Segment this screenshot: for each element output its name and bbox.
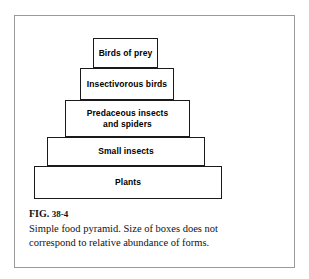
figure-page: Birds of prey Insectivorous birds Predac… xyxy=(0,0,309,279)
figure-caption-text: Simple food pyramid. Size of boxes does … xyxy=(29,222,265,249)
pyramid-tier-label: Predaceous insects and spiders xyxy=(85,108,171,130)
pyramid-tier-small-insects: Small insects xyxy=(47,137,205,166)
pyramid-tier-insectivorous-birds: Insectivorous birds xyxy=(80,68,174,100)
pyramid-tier-label: Birds of prey xyxy=(97,48,155,59)
pyramid-tier-label: Plants xyxy=(113,177,143,188)
pyramid-tier-label: Insectivorous birds xyxy=(85,79,169,90)
pyramid-tier-predaceous-insects: Predaceous insects and spiders xyxy=(65,100,190,137)
figure-number-line: FIG. 38-4 xyxy=(29,207,265,221)
food-pyramid-diagram: Birds of prey Insectivorous birds Predac… xyxy=(0,0,309,205)
pyramid-tier-label: Small insects xyxy=(96,146,156,157)
pyramid-tier-birds-of-prey: Birds of prey xyxy=(93,38,158,68)
figure-number: 38-4 xyxy=(52,209,69,219)
figure-caption: FIG. 38-4 Simple food pyramid. Size of b… xyxy=(29,207,265,249)
pyramid-tier-plants: Plants xyxy=(34,166,222,199)
figure-word: FIG. xyxy=(29,208,49,219)
